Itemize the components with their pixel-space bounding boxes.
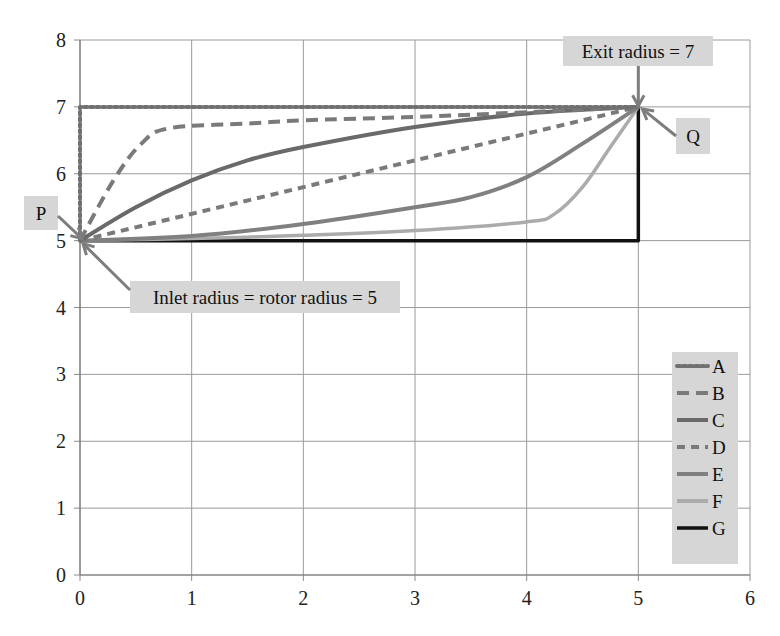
x-tick-label: 6 (745, 587, 755, 609)
y-tick-label: 6 (56, 163, 66, 185)
x-tick-label: 5 (633, 587, 643, 609)
legend-label-c: C (712, 410, 725, 431)
annotation-p-text: P (36, 203, 47, 224)
x-tick-label: 2 (298, 587, 308, 609)
x-tick-label: 4 (522, 587, 532, 609)
annotations: PQExit radius = 7Inlet radius = rotor ra… (24, 36, 713, 313)
legend-label-g: G (712, 518, 726, 539)
annotation-inlet-radius-text: Inlet radius = rotor radius = 5 (153, 287, 377, 308)
annotation-q-text: Q (686, 126, 700, 147)
y-tick-label: 0 (56, 564, 66, 586)
annotation-exit-radius-text: Exit radius = 7 (582, 41, 695, 62)
y-tick-label: 8 (56, 29, 66, 51)
y-tick-label: 2 (56, 430, 66, 452)
y-tick-label: 3 (56, 363, 66, 385)
legend-label-e: E (712, 464, 724, 485)
y-tick-label: 5 (56, 230, 66, 252)
legend-label-d: D (712, 437, 726, 458)
y-tick-label: 4 (56, 297, 66, 319)
legend-box (672, 352, 738, 564)
x-tick-label: 0 (75, 587, 85, 609)
y-tick-label: 1 (56, 497, 66, 519)
legend-label-b: B (712, 383, 725, 404)
y-tick-label: 7 (56, 96, 66, 118)
legend-label-a: A (712, 356, 726, 377)
x-tick-label: 1 (187, 587, 197, 609)
legend: ABCDEFG (672, 352, 738, 564)
chart: 0123456012345678 PQExit radius = 7Inlet … (0, 0, 780, 636)
annotation-inlet-arrow (83, 244, 130, 290)
x-tick-label: 3 (410, 587, 420, 609)
annotation-q-arrow (642, 109, 676, 136)
legend-label-f: F (712, 491, 723, 512)
